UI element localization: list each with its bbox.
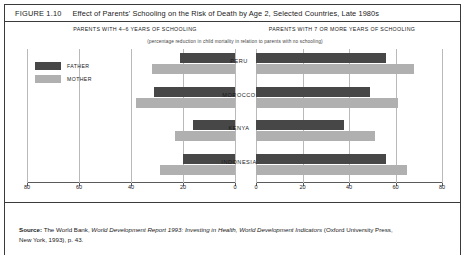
left-gridline-80: [27, 49, 28, 183]
right-panel-heading: PARENTS WITH 7 OR MORE YEARS OF SCHOOLIN…: [237, 26, 447, 32]
bar-right-indonesia-father: [256, 154, 386, 164]
bar-right-indonesia-mother: [256, 165, 407, 175]
right-axis-ticklabels: 020406080: [256, 184, 442, 195]
left-ticklabel-0: 0: [233, 184, 236, 190]
legend-item-father: FATHER: [35, 62, 92, 70]
left-ticklabel-20: 20: [180, 184, 186, 190]
country-label-column: PERUMOROCCOKENYAINDONESIA: [210, 49, 268, 183]
left-ticklabel-60: 60: [76, 184, 82, 190]
chart-subtitle: (percentage reduction in child mortality…: [65, 39, 405, 44]
country-label-kenya: KENYA: [210, 125, 268, 131]
right-ticklabel-80: 80: [439, 184, 445, 190]
left-ticklabel-40: 40: [128, 184, 134, 190]
country-label-morocco: MOROCCO: [210, 92, 268, 98]
bar-right-kenya-mother: [256, 131, 375, 141]
country-label-indonesia: INDONESIA: [210, 159, 268, 165]
figure-title-bar: FIGURE 1.10 Effect of Parents' Schooling…: [5, 5, 460, 22]
legend-label-father: FATHER: [67, 63, 89, 69]
source-text-italic: World Development Report 1993: Investing…: [91, 226, 322, 233]
right-ticklabel-40: 40: [346, 184, 352, 190]
right-ticklabel-20: 20: [299, 184, 305, 190]
source-line-1: Source: The World Bank, World Developmen…: [19, 225, 446, 235]
left-axis-ticklabels: 806040200: [27, 184, 235, 195]
country-label-peru: PERU: [210, 58, 268, 64]
source-line-2: New York, 1993), p. 43.: [19, 235, 446, 245]
right-ticklabel-60: 60: [392, 184, 398, 190]
bar-right-peru-mother: [256, 64, 414, 74]
figure-title: Effect of Parents' Schooling on the Risk…: [73, 9, 380, 18]
left-ticklabel-80: 80: [24, 184, 30, 190]
chart-area: PARENTS WITH 4–6 YEARS OF SCHOOLING PARE…: [5, 22, 460, 202]
source-text-c: (Oxford University Press,: [322, 226, 392, 233]
source-label: Source:: [19, 226, 42, 233]
legend-item-mother: MOTHER: [35, 75, 92, 83]
bar-right-peru-father: [256, 53, 386, 63]
right-plot: [256, 49, 442, 183]
bar-right-kenya-father: [256, 120, 344, 130]
legend-swatch-father-icon: [35, 62, 61, 70]
right-ticklabel-0: 0: [254, 184, 257, 190]
bar-right-morocco-mother: [256, 98, 398, 108]
left-panel-heading: PARENTS WITH 4–6 YEARS OF SCHOOLING: [35, 26, 235, 32]
left-gridline-40: [131, 49, 132, 183]
right-gridline-80: [442, 49, 443, 183]
source-block: Source: The World Bank, World Developmen…: [5, 203, 460, 255]
source-text-a: The World Bank,: [42, 226, 91, 233]
chart-legend: FATHER MOTHER: [35, 62, 92, 88]
legend-label-mother: MOTHER: [67, 76, 92, 82]
bar-right-morocco-father: [256, 87, 370, 97]
figure-container: FIGURE 1.10 Effect of Parents' Schooling…: [0, 0, 465, 259]
legend-swatch-mother-icon: [35, 75, 61, 83]
figure-number: FIGURE 1.10: [15, 9, 62, 18]
